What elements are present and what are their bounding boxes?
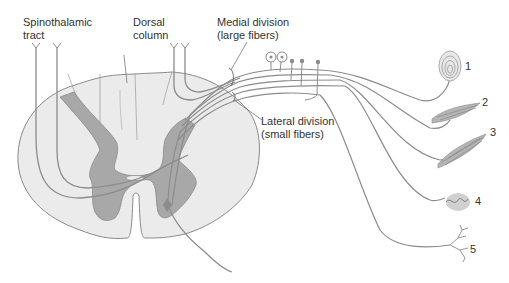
receptor-number-1: 1 <box>465 60 471 72</box>
receptor-number-2: 2 <box>482 96 488 108</box>
peripheral-fibers <box>320 70 452 247</box>
label-dorsal-column: Dorsal column <box>133 16 168 42</box>
receptor-4-ending <box>446 193 470 211</box>
label-spinothalamic-tract: Spinothalamic tract <box>23 16 92 42</box>
receptor-2-spindle <box>432 103 480 123</box>
label-line: Lateral division <box>261 115 334 128</box>
receptor-1-pacinian <box>439 51 461 81</box>
receptor-number-3: 3 <box>490 126 496 138</box>
label-line: Dorsal <box>133 16 168 29</box>
receptor-3-muscle <box>438 134 486 168</box>
receptor-number-4: 4 <box>475 195 481 207</box>
label-line: Medial division <box>217 16 289 29</box>
label-lateral-division: Lateral division (small fibers) <box>261 115 334 141</box>
receptor-5-free-ending <box>450 225 468 262</box>
diagram-graphic <box>0 0 509 283</box>
label-line: Spinothalamic <box>23 16 92 29</box>
label-line: (small fibers) <box>261 128 334 141</box>
label-line: column <box>133 29 168 42</box>
label-line: tract <box>23 29 92 42</box>
label-line: (large fibers) <box>217 29 289 42</box>
spinal-cord-white-matter <box>18 72 260 239</box>
spinal-cord-diagram: Spinothalamic tract Dorsal column Medial… <box>0 0 509 283</box>
receptor-number-5: 5 <box>470 243 476 255</box>
label-medial-division: Medial division (large fibers) <box>217 16 289 42</box>
